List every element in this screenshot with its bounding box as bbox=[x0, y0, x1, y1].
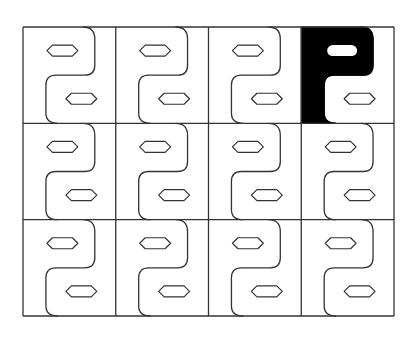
tile bbox=[139, 220, 190, 316]
slot-top bbox=[47, 238, 78, 249]
s-curve bbox=[139, 220, 188, 316]
slot-top bbox=[232, 141, 263, 152]
s-curve bbox=[231, 220, 280, 316]
tile bbox=[301, 27, 375, 123]
slot-bottom bbox=[344, 93, 375, 104]
slot-bottom bbox=[251, 93, 282, 104]
slot-top bbox=[140, 45, 171, 56]
slot-bottom bbox=[66, 190, 97, 201]
slot-bottom bbox=[159, 286, 190, 297]
slot-top bbox=[47, 141, 78, 152]
slot-bottom bbox=[66, 286, 97, 297]
slot-top bbox=[232, 238, 263, 249]
tile bbox=[46, 27, 97, 123]
tile bbox=[231, 220, 282, 316]
slot-bottom bbox=[251, 286, 282, 297]
tile bbox=[231, 123, 282, 219]
slot-top bbox=[327, 45, 357, 56]
slot-bottom bbox=[251, 190, 282, 201]
tile bbox=[46, 220, 97, 316]
slot-top bbox=[140, 141, 171, 152]
slot-top bbox=[232, 45, 263, 56]
tile bbox=[324, 220, 375, 316]
s-curve bbox=[46, 220, 95, 316]
s-curve bbox=[231, 27, 280, 123]
tile bbox=[231, 27, 282, 123]
s-curve bbox=[139, 123, 188, 219]
s-curve bbox=[46, 123, 95, 219]
slot-top bbox=[325, 141, 356, 152]
s-curve bbox=[324, 123, 373, 219]
s-curve bbox=[231, 123, 280, 219]
slot-top bbox=[325, 238, 356, 249]
slot-bottom bbox=[159, 190, 190, 201]
tile bbox=[324, 123, 375, 219]
slot-bottom bbox=[344, 286, 375, 297]
slot-bottom bbox=[159, 93, 190, 104]
slot-bottom bbox=[66, 93, 97, 104]
s-curve bbox=[139, 27, 188, 123]
tile bbox=[139, 123, 190, 219]
tile bbox=[46, 123, 97, 219]
slot-top bbox=[47, 45, 78, 56]
slot-top bbox=[140, 238, 171, 249]
tile bbox=[139, 27, 190, 123]
s-curve bbox=[46, 27, 95, 123]
tiling-diagram bbox=[0, 0, 416, 339]
slot-bottom bbox=[344, 190, 375, 201]
s-curve bbox=[324, 220, 373, 316]
